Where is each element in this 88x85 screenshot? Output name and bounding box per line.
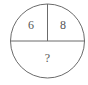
section-top-right-value: 8 bbox=[60, 18, 66, 32]
section-top-left-value: 6 bbox=[28, 18, 34, 32]
section-bottom-value: ? bbox=[45, 51, 50, 65]
number-circle-diagram: 6 8 ? bbox=[0, 0, 88, 85]
